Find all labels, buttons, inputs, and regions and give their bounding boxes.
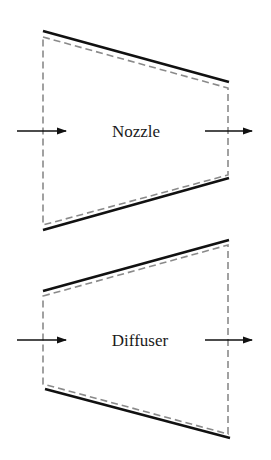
diffuser: Diffuser xyxy=(17,240,252,438)
nozzle: Nozzle xyxy=(17,31,252,230)
diffuser-bottom-wall xyxy=(45,389,230,438)
nozzle-diffuser-diagram: Nozzle Diffuser xyxy=(0,0,271,460)
nozzle-label: Nozzle xyxy=(112,122,160,141)
diffuser-top-wall xyxy=(43,240,229,291)
nozzle-top-wall xyxy=(43,31,229,82)
nozzle-bottom-wall xyxy=(43,178,229,230)
diffuser-label: Diffuser xyxy=(112,331,169,350)
